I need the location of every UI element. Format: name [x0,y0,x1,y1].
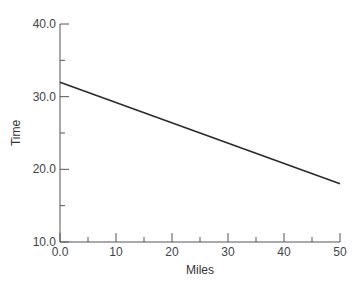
x-tick-label: 10 [109,245,123,259]
y-tick-label: 20.0 [33,162,57,176]
axes: 10.020.030.040.00.01020304050 [33,17,347,259]
x-tick-label: 40 [277,245,291,259]
line-chart: 10.020.030.040.00.01020304050 Miles Time [0,0,359,288]
x-axis-title: Miles [186,263,214,277]
x-tick-label: 30 [221,245,235,259]
y-tick-label: 40.0 [33,17,57,31]
x-tick-label: 20 [165,245,179,259]
x-tick-label: 0.0 [52,245,69,259]
data-line [60,82,340,184]
x-tick-label: 50 [333,245,347,259]
y-axis-title: Time [9,120,23,147]
y-tick-label: 30.0 [33,90,57,104]
plot-area [60,82,340,184]
